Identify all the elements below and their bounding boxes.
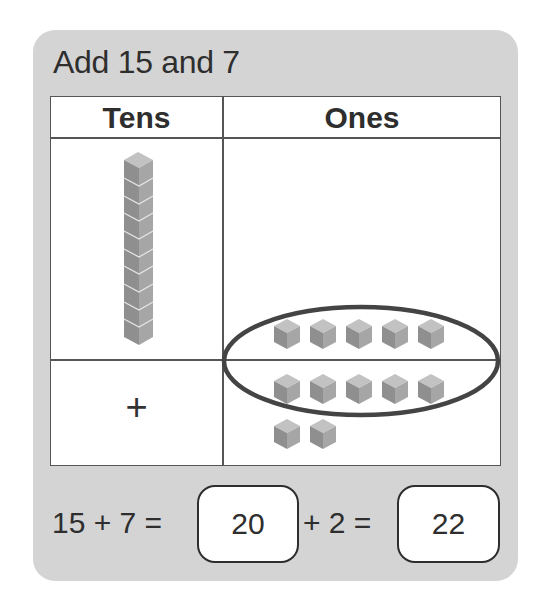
tens-rod-icon	[124, 152, 153, 345]
equation-part-1: 15 + 7 =	[52, 500, 162, 546]
ones-cubes-row-1	[274, 319, 444, 349]
answer-box-1[interactable]: 20	[197, 485, 299, 563]
equation-part-2: + 2 =	[303, 500, 371, 546]
ones-cubes-row-2	[274, 374, 444, 404]
answer-box-2[interactable]: 22	[397, 485, 500, 563]
ones-cubes-row-3	[274, 419, 336, 449]
